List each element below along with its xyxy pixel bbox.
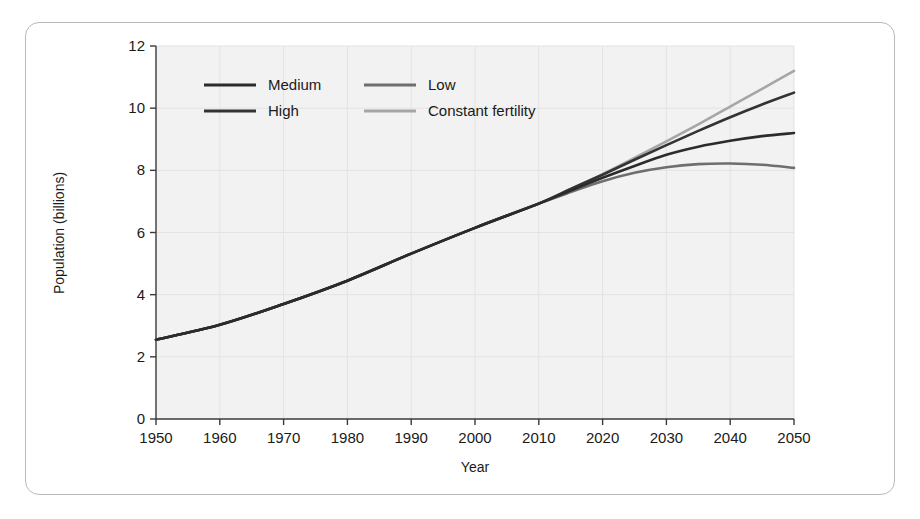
x-tick-label: 1970: [267, 429, 300, 446]
x-tick-label: 1990: [395, 429, 428, 446]
legend-label-high: High: [268, 102, 299, 119]
x-tick-label: 2020: [586, 429, 619, 446]
legend-label-constant-fertility: Constant fertility: [428, 102, 536, 119]
x-tick-label: 1950: [139, 429, 172, 446]
y-tick-label: 10: [128, 99, 145, 116]
legend-label-low: Low: [428, 76, 456, 93]
x-axis-ticks: 1950196019701980199020002010202020302040…: [139, 419, 810, 446]
x-tick-label: 2000: [458, 429, 491, 446]
x-tick-label: 1980: [331, 429, 364, 446]
x-tick-label: 2040: [714, 429, 747, 446]
population-projection-chart: 024681012 195019601970198019902000201020…: [26, 23, 896, 496]
y-axis-title: Population (billions): [51, 172, 67, 294]
x-tick-label: 1960: [203, 429, 236, 446]
y-tick-label: 12: [128, 37, 145, 54]
y-tick-label: 4: [137, 286, 145, 303]
y-tick-label: 6: [137, 224, 145, 241]
x-tick-label: 2030: [650, 429, 683, 446]
y-tick-label: 2: [137, 348, 145, 365]
x-axis-title: Year: [461, 459, 490, 475]
y-tick-label: 8: [137, 161, 145, 178]
y-tick-label: 0: [137, 410, 145, 427]
x-tick-label: 2050: [777, 429, 810, 446]
legend-label-medium: Medium: [268, 76, 321, 93]
x-tick-label: 2010: [522, 429, 555, 446]
y-axis-ticks: 024681012: [128, 37, 156, 427]
figure-card: 024681012 195019601970198019902000201020…: [25, 22, 895, 495]
